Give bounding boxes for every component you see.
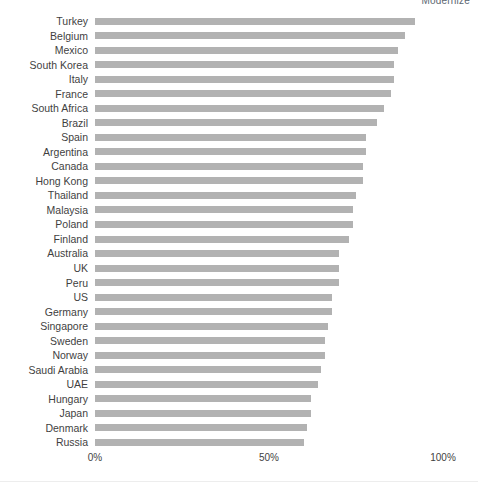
bar	[95, 32, 405, 39]
bar-category-label: Saudi Arabia	[0, 363, 88, 378]
bar-track	[95, 435, 443, 450]
bar-category-label: Turkey	[0, 14, 88, 29]
bar	[95, 163, 363, 170]
bar	[95, 366, 321, 373]
bar-track	[95, 72, 443, 87]
bar-track	[95, 392, 443, 407]
x-axis-tick-label: 100%	[430, 452, 456, 463]
bar	[95, 177, 363, 184]
bar-row: Germany	[0, 305, 478, 320]
bar-row: Belgium	[0, 29, 478, 44]
bar-category-label: South Korea	[0, 58, 88, 73]
bar-category-label: Hungary	[0, 392, 88, 407]
bar-track	[95, 159, 443, 174]
bar-row: Brazil	[0, 116, 478, 131]
bar-category-label: Italy	[0, 72, 88, 87]
bar-category-label: Poland	[0, 217, 88, 232]
bar-row: Poland	[0, 217, 478, 232]
bar-row: Finland	[0, 232, 478, 247]
bar	[95, 410, 311, 417]
bar-row: Italy	[0, 72, 478, 87]
bar-track	[95, 421, 443, 436]
bar	[95, 90, 391, 97]
bar-row: Canada	[0, 159, 478, 174]
bar-category-label: Germany	[0, 305, 88, 320]
bar-track	[95, 43, 443, 58]
bar-category-label: US	[0, 290, 88, 305]
bar-category-label: Mexico	[0, 43, 88, 58]
watermark-label: Modernize	[422, 0, 471, 6]
bar-category-label: Finland	[0, 232, 88, 247]
bar-category-label: Denmark	[0, 421, 88, 436]
bar-category-label: Peru	[0, 276, 88, 291]
bar	[95, 61, 394, 68]
bar-track	[95, 130, 443, 145]
bar-track	[95, 261, 443, 276]
bar-row: Hungary	[0, 392, 478, 407]
bar-row: Saudi Arabia	[0, 363, 478, 378]
bar-row: Singapore	[0, 319, 478, 334]
bar-row: South Africa	[0, 101, 478, 116]
bar-category-label: Singapore	[0, 319, 88, 334]
x-axis: 0%50%100%	[0, 452, 478, 468]
bar-track	[95, 145, 443, 160]
bar-row: Hong Kong	[0, 174, 478, 189]
bar-track	[95, 363, 443, 378]
bar-track	[95, 246, 443, 261]
plot-area: TurkeyBelgiumMexicoSouth KoreaItalyFranc…	[0, 14, 478, 450]
bar-category-label: Canada	[0, 159, 88, 174]
bar-category-label: Norway	[0, 348, 88, 363]
bar-row: France	[0, 87, 478, 102]
bar-category-label: Russia	[0, 435, 88, 450]
bar-category-label: UK	[0, 261, 88, 276]
bar	[95, 18, 415, 25]
bar-row: Malaysia	[0, 203, 478, 218]
x-axis-tick-label: 50%	[259, 452, 279, 463]
bar-track	[95, 319, 443, 334]
bar-category-label: Thailand	[0, 188, 88, 203]
bar-row: Mexico	[0, 43, 478, 58]
bar	[95, 424, 307, 431]
bar-track	[95, 14, 443, 29]
bar-track	[95, 305, 443, 320]
bar-track	[95, 174, 443, 189]
bar-category-label: Australia	[0, 246, 88, 261]
bar-row: Russia	[0, 435, 478, 450]
bar-track	[95, 188, 443, 203]
bar-row: Denmark	[0, 421, 478, 436]
bar-row: Thailand	[0, 188, 478, 203]
bar-track	[95, 116, 443, 131]
bar-track	[95, 58, 443, 73]
bar-row: Argentina	[0, 145, 478, 160]
bar-category-label: Argentina	[0, 145, 88, 160]
bar	[95, 337, 325, 344]
bar	[95, 294, 332, 301]
bar-category-label: Spain	[0, 130, 88, 145]
bottom-divider	[0, 481, 478, 482]
bar-track	[95, 290, 443, 305]
bar-row: UAE	[0, 377, 478, 392]
bar-row: Norway	[0, 348, 478, 363]
bar-category-label: Belgium	[0, 29, 88, 44]
bar-track	[95, 377, 443, 392]
bar-track	[95, 276, 443, 291]
bar-track	[95, 29, 443, 44]
bar	[95, 265, 339, 272]
bar-row: Spain	[0, 130, 478, 145]
bar-category-label: Malaysia	[0, 203, 88, 218]
bar-category-label: Japan	[0, 406, 88, 421]
bar-track	[95, 203, 443, 218]
bar	[95, 279, 339, 286]
bar-category-label: France	[0, 87, 88, 102]
bar-track	[95, 87, 443, 102]
bar-category-label: Hong Kong	[0, 174, 88, 189]
bar-category-label: UAE	[0, 377, 88, 392]
bar	[95, 192, 356, 199]
bar	[95, 47, 398, 54]
bar-track	[95, 101, 443, 116]
bar	[95, 250, 339, 257]
bar-chart: Modernize TurkeyBelgiumMexicoSouth Korea…	[0, 0, 478, 490]
bar-category-label: South Africa	[0, 101, 88, 116]
bar	[95, 236, 349, 243]
bar-category-label: Sweden	[0, 334, 88, 349]
